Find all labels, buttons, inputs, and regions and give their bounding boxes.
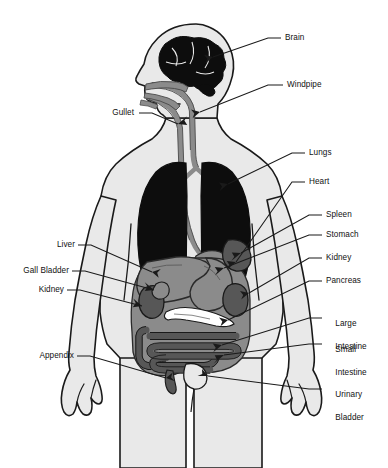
label-stomach: Stomach (326, 229, 359, 241)
label-spleen: Spleen (326, 209, 352, 221)
label-kidney-left: Kidney (39, 284, 64, 296)
label-kidney-right: Kidney (326, 252, 351, 264)
label-windpipe: Windpipe (287, 79, 322, 91)
label-small-intestine-line1: Small (335, 345, 356, 354)
label-liver: Liver (57, 239, 75, 251)
label-pancreas: Pancreas (326, 275, 361, 287)
label-appendix: Appendix (39, 350, 74, 362)
kidney-right-organ (223, 284, 248, 317)
label-heart: Heart (309, 176, 329, 188)
label-urinary-bladder: Urinary Bladder (326, 377, 364, 435)
label-gullet: Gullet (112, 107, 134, 119)
label-gall-bladder: Gall Bladder (23, 265, 69, 277)
label-urinary-bladder-line2: Bladder (335, 413, 364, 422)
label-brain: Brain (285, 32, 304, 44)
anatomy-diagram: Brain Windpipe Lungs Heart Spleen Stomac… (0, 0, 388, 468)
label-lungs: Lungs (309, 147, 332, 159)
label-large-intestine-line1: Large (335, 319, 356, 328)
label-urinary-bladder-line1: Urinary (335, 390, 362, 399)
label-small-intestine-line2: Intestine (335, 368, 366, 377)
